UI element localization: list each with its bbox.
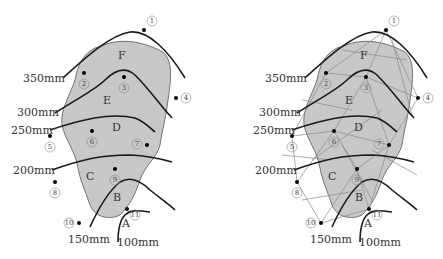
svg-text:F: F	[360, 49, 368, 62]
panel-isohyetal: 350mm 300mm 250mm 200mm 150mm 100mm F E …	[11, 16, 191, 249]
svg-text:C: C	[328, 170, 336, 183]
svg-text:100mm: 100mm	[117, 236, 159, 249]
diagram-root: 350mm 300mm 250mm 200mm 150mm 100mm F E …	[0, 0, 443, 259]
svg-text:5: 5	[290, 143, 294, 151]
svg-text:D: D	[354, 121, 363, 134]
svg-text:250mm: 250mm	[11, 124, 53, 137]
svg-text:E: E	[103, 94, 111, 107]
svg-text:F: F	[118, 49, 126, 62]
svg-text:300mm: 300mm	[17, 106, 59, 119]
svg-text:8: 8	[53, 189, 57, 197]
svg-text:10: 10	[307, 219, 316, 227]
svg-text:200mm: 200mm	[13, 164, 55, 177]
svg-text:A: A	[121, 217, 131, 230]
svg-text:D: D	[112, 121, 121, 134]
svg-text:8: 8	[295, 189, 299, 197]
svg-text:100mm: 100mm	[359, 236, 401, 249]
svg-text:5: 5	[48, 143, 52, 151]
svg-text:2: 2	[324, 80, 328, 88]
svg-text:10: 10	[65, 219, 74, 227]
svg-text:350mm: 350mm	[23, 72, 65, 85]
svg-text:250mm: 250mm	[253, 124, 295, 137]
svg-text:E: E	[345, 94, 353, 107]
svg-text:200mm: 200mm	[255, 164, 297, 177]
svg-text:1: 1	[150, 17, 154, 25]
svg-text:B: B	[355, 191, 363, 204]
svg-text:9: 9	[113, 176, 117, 184]
svg-text:3: 3	[364, 84, 368, 92]
svg-text:4: 4	[184, 94, 189, 102]
svg-text:9: 9	[355, 176, 359, 184]
svg-text:B: B	[113, 191, 121, 204]
svg-text:300mm: 300mm	[259, 106, 301, 119]
svg-text:3: 3	[122, 84, 126, 92]
svg-text:11: 11	[131, 211, 140, 219]
svg-text:2: 2	[82, 80, 86, 88]
svg-text:4: 4	[426, 94, 431, 102]
svg-text:150mm: 150mm	[68, 233, 110, 246]
svg-text:350mm: 350mm	[265, 72, 307, 85]
svg-text:6: 6	[332, 138, 337, 146]
svg-text:7: 7	[377, 140, 381, 148]
panel-thiessen-isohyetal: 1 2 3 4 5 6 7 8 9 10 11 350mm 300mm 250m…	[253, 16, 433, 249]
svg-text:7: 7	[135, 140, 139, 148]
svg-text:11: 11	[373, 211, 382, 219]
svg-text:6: 6	[90, 138, 95, 146]
svg-text:C: C	[86, 170, 94, 183]
svg-text:1: 1	[392, 17, 396, 25]
svg-text:150mm: 150mm	[310, 233, 352, 246]
svg-text:A: A	[363, 217, 373, 230]
